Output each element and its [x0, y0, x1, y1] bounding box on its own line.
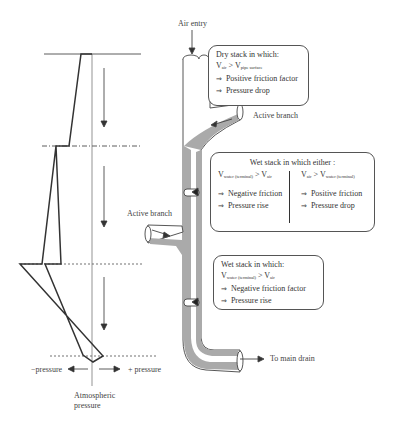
wet-either-right-column: Vair > Vwater (terminal) ⇒Positive frict…	[301, 169, 362, 212]
pressure-curve	[20, 54, 103, 362]
active-branch-mid-label: Active branch	[127, 210, 172, 218]
wet-box-title: Wet stack in which:	[221, 259, 323, 270]
minus-pressure-label: −pressure	[31, 366, 62, 374]
implies-icon: ⇒	[301, 190, 307, 198]
dry-box-title: Dry stack in which:	[216, 49, 308, 60]
to-main-drain-label: To main drain	[270, 355, 315, 363]
pressure-direction-arrows	[68, 366, 120, 372]
pressure-profile	[20, 54, 158, 386]
plus-pressure-label: + pressure	[128, 366, 161, 374]
wet-stack-either-box: Wet stack in which either : Vwater (term…	[210, 152, 375, 232]
wet-either-title: Wet stack in which either :	[211, 157, 374, 168]
dry-stack-box: Dry stack in which: Vair > Vpipe surface…	[208, 45, 309, 106]
implies-icon: ⇒	[221, 297, 227, 305]
atmospheric-label-line2: pressure	[74, 402, 101, 410]
flow-arrows	[101, 68, 107, 330]
dry-box-condition: Vair > Vpipe surface	[216, 60, 308, 73]
atmospheric-label-line1: Atmospheric	[74, 392, 115, 400]
implies-icon: ⇒	[216, 75, 222, 83]
implies-icon: ⇒	[216, 87, 222, 95]
active-branch-top-label: Active branch	[253, 112, 298, 120]
wet-either-left-column: Vwater (terminal) > Vair ⇒Negative frict…	[218, 169, 282, 212]
dry-box-line2: ⇒Pressure drop	[216, 85, 308, 97]
implies-icon: ⇒	[218, 190, 224, 198]
wet-stack-box: Wet stack in which: Vwater (terminal) > …	[213, 255, 324, 310]
implies-icon: ⇒	[218, 202, 224, 210]
wet-box-condition: Vwater (terminal) > Vair	[221, 270, 323, 283]
implies-icon: ⇒	[301, 202, 307, 210]
wet-box-line2: ⇒Pressure rise	[221, 295, 323, 307]
column-divider	[289, 171, 290, 223]
air-entry-label: Air entry	[178, 20, 207, 28]
dry-box-line1: ⇒Positive friction factor	[216, 73, 308, 85]
wet-box-line1: ⇒Negative friction factor	[221, 283, 323, 295]
implies-icon: ⇒	[221, 285, 227, 293]
